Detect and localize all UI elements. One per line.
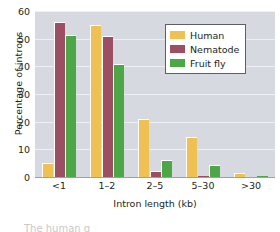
- x-axis-tick: 5–30: [192, 180, 215, 191]
- x-axis-label: Intron length (kb): [35, 198, 275, 209]
- legend-label: Nematode: [190, 44, 239, 55]
- x-axis-tick: <1: [52, 180, 66, 191]
- x-axis-tick: 1–2: [99, 180, 116, 191]
- bar: [113, 64, 124, 177]
- bar: [102, 36, 113, 177]
- bar: [54, 22, 65, 177]
- legend-item: Fruit fly: [170, 56, 239, 70]
- caption-remnant: The human g: [24, 223, 90, 232]
- bar: [186, 137, 197, 177]
- legend-swatch-icon: [170, 45, 185, 53]
- bar: [209, 165, 220, 177]
- legend-item: Human: [170, 28, 239, 42]
- legend-swatch-icon: [170, 59, 185, 67]
- legend-item: Nematode: [170, 42, 239, 56]
- y-axis-tick: 40: [18, 61, 30, 72]
- bar: [42, 163, 53, 177]
- x-axis-tick: >30: [241, 180, 261, 191]
- legend: HumanNematodeFruit fly: [165, 24, 246, 74]
- legend-label: Fruit fly: [190, 58, 226, 69]
- intron-length-bar-chart: Percentage of introns 0102030405060 <11–…: [0, 0, 280, 232]
- y-axis-tick: 60: [18, 6, 30, 17]
- bar-group: [83, 11, 131, 177]
- legend-label: Human: [190, 30, 224, 41]
- x-axis-tick: 2–5: [147, 180, 164, 191]
- bar: [65, 35, 76, 177]
- y-axis-tick: 0: [24, 172, 30, 183]
- y-axis-tick: 10: [18, 144, 30, 155]
- y-axis-tick: 50: [18, 33, 30, 44]
- bar: [138, 119, 149, 177]
- x-axis-tick-labels: <11–22–55–30>30: [35, 180, 275, 196]
- bar: [161, 160, 172, 177]
- y-axis-tick-labels: 0102030405060: [0, 0, 33, 232]
- y-axis-tick: 20: [18, 116, 30, 127]
- y-axis-tick: 30: [18, 89, 30, 100]
- x-axis-line: [35, 177, 275, 178]
- bar-group: [35, 11, 83, 177]
- legend-swatch-icon: [170, 31, 185, 39]
- bar: [90, 25, 101, 177]
